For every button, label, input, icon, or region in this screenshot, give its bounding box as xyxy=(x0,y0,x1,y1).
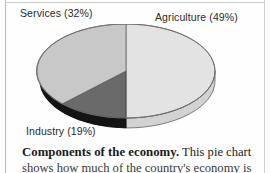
caption-title: Components of the economy. xyxy=(22,145,179,159)
pie-label-services: Services (32%) xyxy=(20,7,93,19)
caption-line-two: shows how much of the country's economy … xyxy=(22,161,260,173)
pie-label-industry: Industry (19%) xyxy=(26,125,96,137)
pie-label-agriculture: Agriculture (49%) xyxy=(155,11,238,23)
pie-chart-graphic xyxy=(36,24,218,129)
figure-caption: Components of the economy. This pie char… xyxy=(22,145,260,173)
figure-pie-chart: Services (32%) Agriculture (49%) Industr… xyxy=(0,0,270,173)
chart-area: Services (32%) Agriculture (49%) Industr… xyxy=(0,0,270,140)
caption-body: This pie chart xyxy=(179,145,251,159)
pie-svg xyxy=(36,24,218,129)
